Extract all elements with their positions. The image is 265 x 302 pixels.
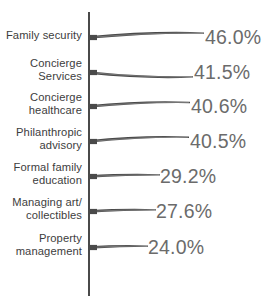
bar-shape xyxy=(88,20,204,56)
bar-row: Concierge Services41.5% xyxy=(0,55,265,91)
bar-row: Philanthropic advisory40.5% xyxy=(0,124,265,160)
bar-shape xyxy=(88,159,160,195)
category-label: Property management xyxy=(0,232,82,259)
bar-row: Property management24.0% xyxy=(0,230,265,266)
category-label: Family security xyxy=(0,29,82,42)
value-label: 29.2% xyxy=(160,165,216,187)
category-label: Managing art/ collectibles xyxy=(0,196,82,223)
bar-shape xyxy=(88,55,193,91)
bar-shape xyxy=(88,194,156,230)
bar-row: Concierge healthcare40.6% xyxy=(0,89,265,125)
category-label: Concierge healthcare xyxy=(0,91,82,118)
value-label: 46.0% xyxy=(205,26,261,48)
bar-chart: Family security46.0%Concierge Services41… xyxy=(0,0,265,302)
value-label: 40.6% xyxy=(191,95,247,117)
value-label: 40.5% xyxy=(190,130,246,152)
value-label: 24.0% xyxy=(148,236,204,258)
value-label: 41.5% xyxy=(194,61,250,83)
bar-row: Managing art/ collectibles27.6% xyxy=(0,194,265,230)
category-label: Formal family education xyxy=(0,161,82,188)
category-label: Philanthropic advisory xyxy=(0,126,82,153)
category-label: Concierge Services xyxy=(0,57,82,84)
bar-row: Family security46.0% xyxy=(0,20,265,56)
bar-shape xyxy=(88,230,148,266)
bar-shape xyxy=(88,124,189,160)
bar-row: Formal family education29.2% xyxy=(0,159,265,195)
bar-shape xyxy=(88,89,190,125)
value-label: 27.6% xyxy=(156,200,212,222)
